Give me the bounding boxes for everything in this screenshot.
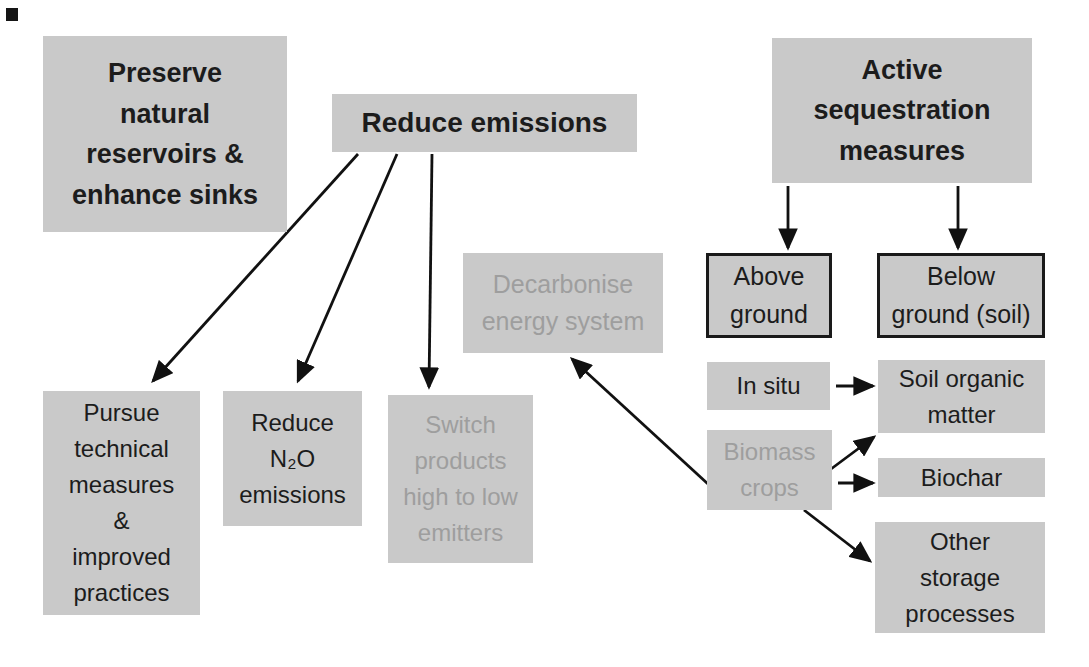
diagram-canvas: Preservenaturalreservoirs &enhance sinks… xyxy=(0,0,1089,667)
arrow-biomass-crops-to-other-storage-processes xyxy=(804,510,870,561)
node-label-line: Pursue xyxy=(83,395,159,431)
node-label-line: Soil organic xyxy=(899,361,1024,397)
node-active-sequestration: Activesequestrationmeasures xyxy=(772,38,1032,183)
node-label-line: natural xyxy=(120,94,210,135)
node-label-line: Biomass xyxy=(723,434,815,470)
arrow-biomass-crops-to-soil-organic-matter xyxy=(831,437,874,469)
node-biomass-crops: Biomasscrops xyxy=(707,430,832,510)
node-label-line: N₂O xyxy=(270,441,315,477)
node-label-line: high to low xyxy=(403,479,518,515)
node-label-line: Preserve xyxy=(108,53,222,94)
node-label-line: ground (soil) xyxy=(892,296,1031,334)
node-reduce-emissions: Reduce emissions xyxy=(332,94,637,152)
node-label-line: processes xyxy=(905,596,1014,632)
node-label-line: products xyxy=(414,443,506,479)
node-label-line: Active xyxy=(861,50,942,91)
node-label-line: sequestration xyxy=(813,90,990,131)
arrow-reduce-emissions-to-reduce-n2o-emissions xyxy=(298,154,397,381)
node-biochar: Biochar xyxy=(878,458,1045,497)
node-label-line: measures xyxy=(69,467,174,503)
node-label-line: storage xyxy=(920,560,1000,596)
node-label-line: ground xyxy=(730,296,808,334)
node-in-situ: In situ xyxy=(707,362,830,410)
arrow-biomass-crops-to-decarbonise-energy-system xyxy=(572,359,708,484)
node-switch-products: Switchproductshigh to lowemitters xyxy=(388,395,533,563)
node-label-line: practices xyxy=(73,575,169,611)
node-label-line: Below xyxy=(927,258,995,296)
node-other-storage-processes: Otherstorageprocesses xyxy=(875,522,1045,633)
node-label-line: emissions xyxy=(239,477,346,513)
node-below-ground-soil: Belowground (soil) xyxy=(877,253,1045,338)
node-label-line: matter xyxy=(927,397,995,433)
node-label-line: In situ xyxy=(736,368,800,404)
node-above-ground: Aboveground xyxy=(706,253,832,338)
node-label-line: Other xyxy=(930,524,990,560)
node-preserve-natural-reservoirs: Preservenaturalreservoirs &enhance sinks xyxy=(43,36,287,232)
node-label-line: Biochar xyxy=(921,460,1002,496)
arrow-reduce-emissions-to-switch-products xyxy=(429,154,432,387)
node-label-line: & xyxy=(113,503,129,539)
node-label-line: measures xyxy=(839,131,965,172)
node-label-line: Reduce emissions xyxy=(362,102,608,144)
node-soil-organic-matter: Soil organicmatter xyxy=(878,360,1045,433)
node-decarbonise-energy-system: Decarboniseenergy system xyxy=(463,253,663,353)
node-label-line: improved xyxy=(72,539,171,575)
node-pursue-technical-measures: Pursuetechnicalmeasures&improvedpractice… xyxy=(43,391,200,615)
node-label-line: emitters xyxy=(418,515,503,551)
node-label-line: enhance sinks xyxy=(72,175,258,216)
node-label-line: Reduce xyxy=(251,405,334,441)
node-label-line: Switch xyxy=(425,407,496,443)
node-label-line: energy system xyxy=(482,303,645,341)
node-label-line: technical xyxy=(74,431,169,467)
scan-artifact-mark xyxy=(6,8,18,21)
node-label-line: reservoirs & xyxy=(86,134,244,175)
node-label-line: Above xyxy=(734,258,805,296)
node-label-line: Decarbonise xyxy=(493,266,633,304)
node-label-line: crops xyxy=(740,470,799,506)
node-reduce-n2o-emissions: ReduceN₂Oemissions xyxy=(223,391,362,526)
